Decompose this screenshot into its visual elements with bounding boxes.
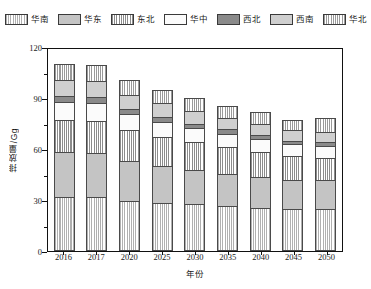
plot-area: [47, 48, 343, 252]
chart-legend: 华南华东东北华中西北西南华北: [0, 8, 371, 30]
bar-segment-华东: [152, 166, 173, 203]
bar-2045[interactable]: [282, 120, 303, 251]
bar-segment-华北: [86, 65, 107, 81]
bar-2035[interactable]: [217, 106, 238, 251]
bar-segment-华北: [282, 120, 303, 130]
bar-2025[interactable]: [152, 90, 173, 251]
legend-label: 西南: [296, 15, 314, 24]
legend-item-华东[interactable]: 华东: [58, 14, 102, 25]
bar-segment-东北: [250, 152, 271, 178]
legend-label: 华南: [31, 15, 49, 24]
bar-group: [48, 49, 342, 251]
legend-item-华南[interactable]: 华南: [5, 14, 49, 25]
legend-label: 华东: [84, 15, 102, 24]
bar-2030[interactable]: [184, 98, 205, 251]
bar-segment-东北: [217, 147, 238, 173]
bar-segment-华东: [119, 161, 140, 201]
legend-swatch-华中: [164, 14, 187, 25]
legend-item-华中[interactable]: 华中: [164, 14, 208, 25]
legend-item-东北[interactable]: 东北: [111, 14, 155, 25]
bar-segment-华北: [54, 64, 75, 80]
bar-segment-华中: [282, 144, 303, 156]
legend-item-西北[interactable]: 西北: [217, 14, 261, 25]
bar-segment-华北: [152, 90, 173, 104]
bar-segment-华南: [184, 204, 205, 251]
bar-segment-华南: [217, 206, 238, 251]
bar-segment-华南: [86, 197, 107, 251]
bar-segment-华东: [54, 152, 75, 196]
bar-segment-华北: [184, 98, 205, 111]
bar-segment-东北: [86, 121, 107, 153]
y-axis-label-text: 排放量/Gg: [8, 128, 20, 172]
bar-segment-西南: [217, 118, 238, 130]
bar-segment-华中: [119, 114, 140, 130]
x-tick-label-2025: 2025: [152, 252, 173, 262]
y-axis-label: 排放量/Gg: [7, 48, 21, 252]
bar-segment-华中: [184, 128, 205, 142]
bar-segment-东北: [282, 156, 303, 180]
bar-segment-华东: [86, 153, 107, 197]
bar-segment-华中: [217, 134, 238, 148]
y-tick-label: 90: [34, 94, 43, 104]
bar-segment-东北: [54, 120, 75, 152]
bar-segment-华东: [315, 180, 336, 208]
bar-segment-华北: [315, 118, 336, 132]
bar-2017[interactable]: [86, 65, 107, 251]
bar-segment-西南: [119, 95, 140, 109]
legend-label: 华北: [349, 15, 367, 24]
bar-segment-西南: [315, 132, 336, 142]
bar-segment-西南: [54, 80, 75, 96]
y-tick-label: 60: [34, 145, 43, 155]
legend-item-西南[interactable]: 西南: [270, 14, 314, 25]
x-tick-label-2050: 2050: [316, 252, 337, 262]
bar-2050[interactable]: [315, 118, 336, 251]
bar-segment-华中: [152, 122, 173, 137]
x-tick-label-2035: 2035: [217, 252, 238, 262]
bar-segment-西南: [86, 81, 107, 97]
legend-swatch-华南: [5, 14, 28, 25]
chart-container: 华南华东东北华中西北西南华北 0306090120 排放量/Gg 2016201…: [0, 0, 371, 289]
x-axis-label: 年份: [47, 267, 343, 279]
bar-segment-西南: [282, 130, 303, 140]
bar-2016[interactable]: [54, 64, 75, 251]
bar-segment-华东: [217, 174, 238, 206]
legend-swatch-华东: [58, 14, 81, 25]
bar-segment-华中: [54, 102, 75, 120]
legend-label: 西北: [243, 15, 261, 24]
legend-label: 东北: [137, 15, 155, 24]
bar-segment-华北: [217, 106, 238, 118]
bar-segment-华南: [315, 209, 336, 252]
bar-2040[interactable]: [250, 112, 271, 251]
bar-segment-华南: [119, 201, 140, 251]
bar-segment-东北: [152, 137, 173, 166]
legend-label: 华中: [190, 15, 208, 24]
bar-segment-东北: [184, 142, 205, 170]
bar-segment-华北: [250, 112, 271, 123]
bar-segment-西南: [250, 124, 271, 135]
x-tick-label-2045: 2045: [283, 252, 304, 262]
bar-segment-华中: [86, 103, 107, 121]
x-tick-label-2020: 2020: [119, 252, 140, 262]
legend-swatch-西南: [270, 14, 293, 25]
x-tick-label-2040: 2040: [250, 252, 271, 262]
bar-segment-东北: [315, 158, 336, 181]
x-tick-label-2016: 2016: [53, 252, 74, 262]
bar-segment-华东: [250, 177, 271, 208]
bar-segment-东北: [119, 130, 140, 161]
bar-segment-华南: [282, 209, 303, 252]
legend-swatch-西北: [217, 14, 240, 25]
bar-segment-华南: [54, 197, 75, 251]
x-axis: 201620172020202520302035204020452050: [47, 252, 343, 268]
legend-swatch-东北: [111, 14, 134, 25]
bar-segment-西南: [152, 103, 173, 117]
y-tick-label: 120: [29, 43, 42, 53]
bar-segment-西南: [184, 111, 205, 124]
y-tick-label: 30: [34, 196, 43, 206]
bar-segment-华东: [282, 180, 303, 209]
bar-segment-华北: [119, 80, 140, 94]
x-tick-label-2017: 2017: [86, 252, 107, 262]
x-tick-label-2030: 2030: [184, 252, 205, 262]
bar-2020[interactable]: [119, 80, 140, 251]
legend-item-华北[interactable]: 华北: [323, 14, 367, 25]
bar-segment-华南: [250, 208, 271, 251]
